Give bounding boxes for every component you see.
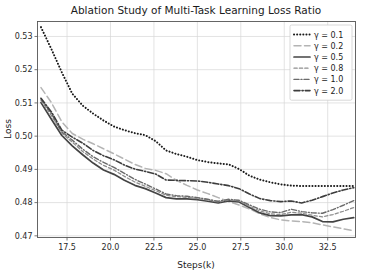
x-tick-label-1: 20.0 (102, 243, 120, 252)
y-tick-label-2: 0.49 (15, 165, 33, 174)
x-tick-label-6: 32.5 (319, 243, 337, 252)
x-tick-label-0: 17.5 (58, 243, 76, 252)
legend-label-3: γ = 0.8 (314, 64, 343, 73)
x-axis-label: Steps(k) (177, 260, 214, 270)
chart-title: Ablation Study of Multi-Task Learning Lo… (71, 4, 322, 16)
y-tick-label-5: 0.52 (15, 65, 33, 74)
y-tick-label-1: 0.48 (15, 198, 33, 207)
y-axis-label: Loss (3, 119, 13, 139)
x-tick-label-2: 22.5 (145, 243, 163, 252)
axis-ticks: 17.520.022.525.027.530.032.50.470.480.49… (15, 32, 337, 251)
legend-label-1: γ = 0.2 (314, 42, 343, 51)
legend-label-4: γ = 1.0 (314, 75, 343, 84)
x-tick-label-3: 25.0 (188, 243, 206, 252)
legend-label-2: γ = 0.5 (314, 53, 343, 62)
chart-legend[interactable]: γ = 0.1γ = 0.2γ = 0.5γ = 0.8γ = 1.0γ = 2… (290, 25, 352, 100)
x-tick-label-5: 30.0 (275, 243, 293, 252)
y-tick-label-0: 0.47 (15, 232, 33, 241)
y-tick-label-4: 0.51 (15, 99, 33, 108)
line-chart: 17.520.022.525.027.530.032.50.470.480.49… (0, 0, 365, 274)
y-tick-label-6: 0.53 (15, 32, 33, 41)
legend-label-0: γ = 0.1 (314, 31, 343, 40)
x-tick-label-4: 27.5 (232, 243, 250, 252)
legend-label-5: γ = 2.0 (314, 87, 343, 96)
y-tick-label-3: 0.50 (15, 132, 33, 141)
chart-figure: 17.520.022.525.027.530.032.50.470.480.49… (0, 0, 365, 274)
